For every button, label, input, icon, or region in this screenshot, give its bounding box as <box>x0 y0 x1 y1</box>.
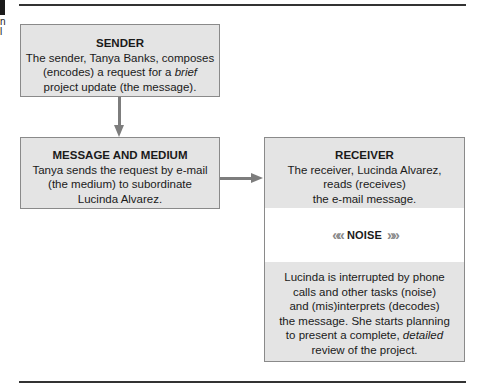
sender-text: (encodes) a request for a <box>43 66 175 78</box>
sender-line: (encodes) a request for a brief <box>21 65 219 80</box>
decoding-line: the message. She starts planning <box>265 314 464 329</box>
message-line: (the medium) to subordinate <box>21 177 219 192</box>
sender-line: project update (the message). <box>21 80 219 95</box>
message-line: Tanya sends the request by e-mail <box>21 163 219 178</box>
receiver-line: The receiver, Lucinda Alvarez, <box>265 163 464 178</box>
message-medium-box: MESSAGE AND MEDIUM Tanya sends the reque… <box>20 137 220 209</box>
receiver-line: the e-mail message. <box>265 192 464 207</box>
arrow-down-icon <box>114 125 124 137</box>
decoding-section: Lucinda is interrupted by phone calls an… <box>265 262 464 357</box>
receiver-box: RECEIVER The receiver, Lucinda Alvarez, … <box>264 137 465 362</box>
decoding-line: to present a complete, detailed <box>265 328 464 343</box>
receiver-section: RECEIVER The receiver, Lucinda Alvarez, … <box>265 138 464 208</box>
noise-label: NOISE <box>347 228 382 243</box>
bottom-rule <box>19 381 466 383</box>
arrow-right-icon <box>251 173 263 183</box>
chevrons-right-icon: »» <box>387 228 397 243</box>
sender-box: SENDER The sender, Tanya Banks, composes… <box>20 24 220 97</box>
cropped-text-fragment: l <box>0 27 2 37</box>
top-rule <box>19 4 466 6</box>
decoding-line: review of the project. <box>265 343 464 358</box>
sender-title: SENDER <box>21 36 219 51</box>
decoding-line: and (mis)interprets (decodes) <box>265 299 464 314</box>
sender-emphasis: brief <box>175 66 197 78</box>
chevrons-left-icon: «« <box>332 228 342 243</box>
message-line: Lucinda Alvarez. <box>21 192 219 207</box>
decoding-emphasis: detailed <box>403 329 443 341</box>
message-title: MESSAGE AND MEDIUM <box>21 148 219 163</box>
decoding-line: calls and other tasks (noise) <box>265 285 464 300</box>
decoding-text: to present a complete, <box>286 329 403 341</box>
sender-line: The sender, Tanya Banks, composes <box>21 51 219 66</box>
receiver-title: RECEIVER <box>265 148 464 163</box>
corner-marker <box>0 0 5 15</box>
decoding-line: Lucinda is interrupted by phone <box>265 270 464 285</box>
arrow-right-shaft <box>220 177 252 180</box>
arrow-down-shaft <box>118 97 121 127</box>
receiver-line: reads (receives) <box>265 177 464 192</box>
noise-section: «« NOISE »» <box>265 208 464 262</box>
